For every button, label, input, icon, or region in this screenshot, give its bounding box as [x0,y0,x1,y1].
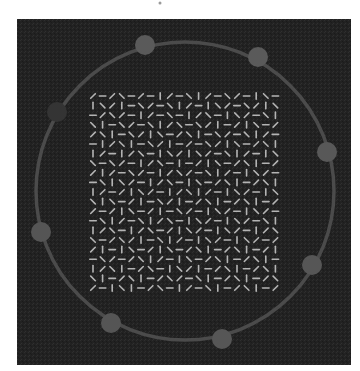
dot-right-lower [302,255,322,275]
stimulus-canvas [0,0,360,371]
dot-bottom [212,329,232,349]
dot-right [317,142,337,162]
dot-left [31,222,51,242]
top-mark-dot [159,2,162,5]
dot-bottom-left [101,313,121,333]
stimulus-svg [0,0,360,371]
dot-top-right [248,47,268,67]
dot-top-left [135,35,155,55]
dot-left-upper [47,102,67,122]
panel-noise-texture [17,19,351,365]
